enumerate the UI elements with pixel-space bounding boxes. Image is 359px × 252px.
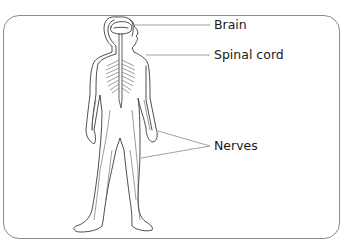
nerves-leader-line-arm [158,131,210,146]
body-outline [74,17,157,232]
label-spinal-cord: Spinal cord [214,49,284,62]
human-nervous-system-figure [0,0,359,252]
label-brain: Brain [214,19,247,32]
nerves-leader-line-leg [141,146,210,158]
spinal-cord-drawing [119,33,122,108]
label-nerves: Nerves [214,140,258,153]
leader-lines [131,25,210,158]
